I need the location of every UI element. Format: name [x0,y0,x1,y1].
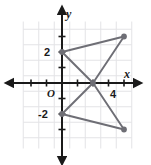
data-point [59,111,65,117]
y-tick-label-2: 2 [44,46,50,58]
y-axis-label: y [64,7,72,21]
y-tick-label-negative-2: -2 [38,108,48,120]
coordinate-plane-svg: y x O 2 -2 4 [0,0,151,165]
x-axis-label: x [123,67,130,81]
data-point [59,49,65,55]
data-point [121,34,127,40]
data-point [121,127,127,133]
data-point [90,80,96,86]
origin-label: O [47,87,55,99]
coordinate-plane-figure: y x O 2 -2 4 [0,0,151,165]
x-tick-label-4: 4 [110,88,117,100]
